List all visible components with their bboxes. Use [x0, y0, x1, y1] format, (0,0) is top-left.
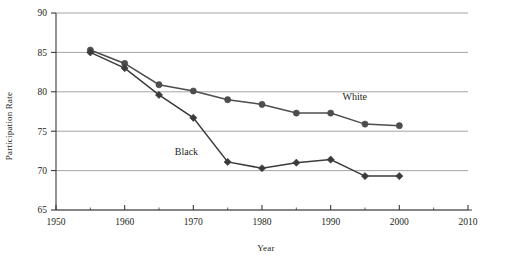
data-point-marker: [396, 123, 402, 129]
y-axis-tick-label: 65: [38, 205, 48, 215]
data-point-marker: [225, 97, 231, 103]
series-white: [87, 47, 402, 129]
participation-rate-line-chart: 657075808590 195019601970198019902000201…: [0, 0, 532, 266]
y-axis-title: Participation Rate: [2, 66, 16, 186]
y-axis-tick-label: 75: [38, 127, 48, 137]
data-point-marker: [361, 173, 368, 180]
y-axis-ticks-group: [51, 13, 56, 210]
y-axis-title-text: Participation Rate: [4, 92, 14, 160]
data-point-marker: [328, 110, 334, 116]
y-axis-tick-label: 70: [38, 166, 48, 176]
data-point-marker: [259, 101, 265, 107]
series-line: [90, 50, 399, 126]
gridlines-group: [56, 13, 468, 210]
data-point-marker: [362, 121, 368, 127]
x-axis-ticks-group: [56, 205, 468, 210]
x-axis-tick-label: 1960: [115, 217, 134, 227]
data-point-marker: [327, 156, 334, 163]
x-axis-tick-label: 1950: [47, 217, 66, 227]
x-axis-tick-label: 2000: [390, 217, 409, 227]
y-axis-tick-label: 85: [38, 48, 48, 58]
series-annotation-white: White: [342, 91, 367, 102]
y-axis-tick-labels-group: 657075808590: [38, 8, 48, 215]
x-axis-tick-label: 1970: [184, 217, 203, 227]
data-point-marker: [156, 82, 162, 88]
y-axis-tick-label: 80: [38, 87, 48, 97]
data-series-group: [87, 47, 403, 180]
y-axis-tick-label: 90: [38, 8, 48, 18]
x-axis-tick-label: 1990: [321, 217, 340, 227]
x-axis-title: Year: [0, 243, 532, 253]
series-annotations-group: WhiteBlack: [175, 91, 368, 156]
data-point-marker: [293, 110, 299, 116]
data-point-marker: [293, 159, 300, 166]
x-axis-tick-label: 2010: [459, 217, 478, 227]
series-annotation-black: Black: [175, 146, 198, 157]
x-axis-tick-labels-group: 1950196019701980199020002010: [47, 217, 478, 227]
data-point-marker: [396, 173, 403, 180]
x-axis-title-text: Year: [257, 243, 274, 253]
data-point-marker: [190, 88, 196, 94]
chart-plot-area: 657075808590 195019601970198019902000201…: [0, 0, 532, 266]
x-axis-tick-label: 1980: [253, 217, 272, 227]
